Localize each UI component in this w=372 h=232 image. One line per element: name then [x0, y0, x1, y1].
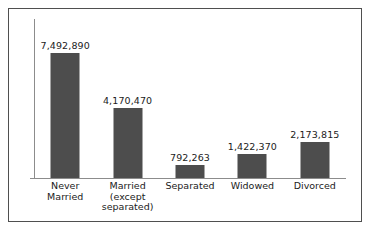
bar-value-label: 4,170,470	[103, 95, 152, 106]
bar-group: 4,170,470	[97, 9, 159, 178]
x-axis-line	[30, 178, 346, 179]
bars-layer: 7,492,8904,170,470792,2631,422,3702,173,…	[34, 9, 346, 178]
category-label-line: Married	[30, 192, 100, 203]
bar	[300, 142, 329, 178]
bar	[113, 108, 142, 178]
bar-value-label: 792,263	[170, 152, 210, 163]
category-label-line: Widowed	[217, 181, 287, 192]
bar	[238, 154, 267, 178]
plot-area: 7,492,8904,170,470792,2631,422,3702,173,…	[9, 9, 361, 221]
bar-group: 792,263	[159, 9, 221, 178]
category-label: Separated	[155, 181, 225, 192]
bar-group: 7,492,890	[34, 9, 96, 178]
bar	[51, 53, 80, 178]
bar-value-label: 2,173,815	[290, 129, 339, 140]
category-label-line: separated)	[93, 202, 163, 213]
bar-value-label: 7,492,890	[41, 40, 90, 51]
bar	[176, 165, 205, 178]
category-label: Divorced	[280, 181, 350, 192]
category-labels-layer: NeverMarriedMarried(exceptseparated)Sepa…	[34, 181, 346, 221]
category-label-line: Divorced	[280, 181, 350, 192]
category-label-line: Separated	[155, 181, 225, 192]
category-label: Married(exceptseparated)	[93, 181, 163, 213]
bar-value-label: 1,422,370	[228, 141, 277, 152]
category-label: NeverMarried	[30, 181, 100, 202]
chart-frame: 7,492,8904,170,470792,2631,422,3702,173,…	[8, 8, 362, 222]
category-label: Widowed	[217, 181, 287, 192]
category-label-line: Married	[93, 181, 163, 192]
bar-group: 1,422,370	[221, 9, 283, 178]
category-label-line: Never	[30, 181, 100, 192]
bar-group: 2,173,815	[284, 9, 346, 178]
